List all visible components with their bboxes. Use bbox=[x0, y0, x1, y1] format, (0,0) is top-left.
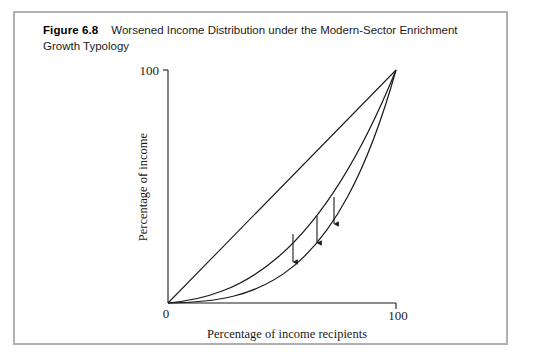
x-axis-title: Percentage of income recipients bbox=[207, 327, 367, 341]
figure-root: Figure 6.8Worsened Income Distribution u… bbox=[0, 0, 533, 363]
y-axis-title: Percentage of income bbox=[136, 132, 150, 241]
lorenz-curve-chart: 100 0 100 Percentage of income Percentag… bbox=[0, 0, 533, 363]
line-of-equality bbox=[168, 70, 396, 303]
plot-area: 100 0 100 Percentage of income Percentag… bbox=[0, 0, 533, 363]
x-axis-tick-label-0: 0 bbox=[163, 306, 170, 321]
x-axis-tick-label-100: 100 bbox=[388, 308, 408, 323]
y-axis-tick-label-100: 100 bbox=[140, 63, 160, 78]
